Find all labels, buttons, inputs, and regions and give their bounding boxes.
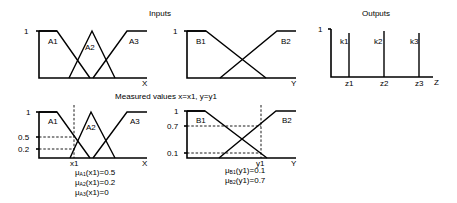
a1-label: A1 (48, 117, 58, 126)
output-singletons-chart: 1 k1 k2 k3 z1 z2 z3 Z (318, 25, 439, 88)
y-tick-1: 1 (174, 107, 179, 116)
top-y-membership-chart: 1 B1 B2 Y (173, 27, 297, 88)
a2-label: A2 (85, 43, 95, 52)
mu-a1-text: μA1(x1)=0.5 (75, 168, 116, 177)
b1-label: B1 (196, 116, 206, 125)
y-tick-1: 1 (173, 27, 178, 36)
z-axis-label: Z (434, 78, 439, 87)
z1-label: z1 (345, 79, 354, 88)
a1-label: A1 (48, 37, 58, 46)
a2-curve (69, 31, 115, 78)
a3-label: A3 (129, 37, 139, 46)
z-y-tick-1: 1 (318, 25, 323, 34)
y-axis-label: Y (291, 79, 297, 88)
a1-curve (39, 112, 90, 158)
x-axis-label: X (142, 159, 148, 168)
b1-label: B1 (196, 37, 206, 46)
fuzzy-inference-diagram: Inputs Outputs Measured values x=x1, y=y… (0, 0, 457, 203)
y-axis-label: Y (291, 159, 297, 168)
bottom-y-measured-chart: 1 0.7 0.1 B1 B2 y1 Y μB1(y1)=0.1 μB2(y1)… (167, 105, 297, 185)
y-tick-01: 0.1 (167, 149, 179, 158)
y-tick-1: 1 (24, 27, 29, 36)
outputs-title: Outputs (362, 9, 390, 18)
a2-label: A2 (86, 123, 96, 132)
k2-label: k2 (374, 37, 383, 46)
mu-a3-text: μA3(x1)=0 (75, 188, 109, 197)
y-tick-02: 0.2 (18, 145, 30, 154)
mu-b1-text: μB1(y1)=0.1 (225, 166, 266, 175)
x-axis-label: X (142, 79, 148, 88)
k3-label: k3 (410, 37, 419, 46)
z3-label: z3 (415, 79, 424, 88)
a3-curve (93, 31, 147, 78)
y-tick-05: 0.5 (18, 133, 30, 142)
a3-label: A3 (130, 117, 140, 126)
b2-label: B2 (281, 37, 291, 46)
y-tick-1: 1 (26, 108, 31, 117)
a2-curve (70, 112, 115, 158)
a1-curve (39, 31, 90, 78)
z2-label: z2 (380, 79, 389, 88)
inputs-title: Inputs (149, 9, 171, 18)
y-tick-07: 0.7 (167, 122, 179, 131)
k1-label: k1 (340, 37, 349, 46)
b2-label: B2 (282, 116, 292, 125)
x1-marker-label: x1 (70, 159, 79, 168)
bottom-x-measured-chart: 1 0.5 0.2 A1 A2 A3 x1 X μA1(x1)=0.5 μA2(… (18, 105, 148, 197)
top-x-membership-chart: 1 A1 A2 A3 X (24, 27, 148, 88)
mu-a2-text: μA2(x1)=0.2 (75, 178, 116, 187)
measured-values-title: Measured values x=x1, y=y1 (115, 92, 217, 101)
mu-b2-text: μB2(y1)=0.7 (225, 176, 266, 185)
